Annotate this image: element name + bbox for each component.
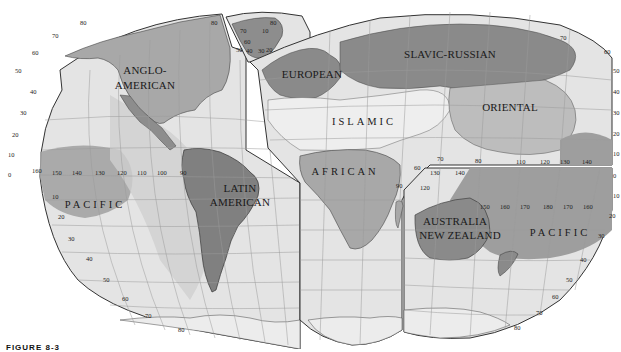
tick: 10 <box>52 193 59 200</box>
tick: 40 <box>613 88 620 95</box>
tick: 150 <box>52 169 62 176</box>
tick: 140 <box>72 169 82 176</box>
tick: 170 <box>520 203 530 210</box>
tick: 20 <box>613 130 620 137</box>
tick: 170 <box>563 203 573 210</box>
tick: 100 <box>157 169 167 176</box>
tick: 30 <box>598 232 605 239</box>
tick: 50 <box>236 46 243 53</box>
label-new-zealand: NEW ZEALAND <box>419 229 501 241</box>
tick: 20 <box>266 46 273 53</box>
tick: 50 <box>613 67 620 74</box>
tick: 70 <box>145 312 152 319</box>
tick: 140 <box>455 169 465 176</box>
label-latin-american-2: AMERICAN <box>210 196 270 208</box>
label-australia: AUSTRALIA <box>423 215 487 227</box>
label-anglo-american-1: ANGLO- <box>123 64 166 76</box>
tick: 0 <box>613 172 616 179</box>
tick: 30 <box>613 109 620 116</box>
tick: 20 <box>12 131 19 138</box>
tick: 130 <box>95 169 105 176</box>
tick: 80 <box>178 326 185 333</box>
tick: 20 <box>58 213 65 220</box>
tick: 180 <box>543 203 553 210</box>
tick: 10 <box>8 151 15 158</box>
tick: 40 <box>30 88 37 95</box>
tick: 110 <box>516 158 526 165</box>
tick: 30 <box>68 235 75 242</box>
tick: 160 <box>500 203 510 210</box>
tick: 70 <box>240 27 247 34</box>
label-anglo-american-2: AMERICAN <box>115 79 175 91</box>
label-african: AFRICAN <box>311 166 378 177</box>
tick: 40 <box>246 47 253 54</box>
tick: 60 <box>414 164 421 171</box>
tick: 80 <box>80 19 87 26</box>
tick: 70 <box>437 155 444 162</box>
tick: 50 <box>103 276 110 283</box>
tick: 140 <box>582 158 592 165</box>
label-latin-american-1: LATIN <box>224 182 257 194</box>
tick: 120 <box>420 184 430 191</box>
label-islamic: ISLAMIC <box>332 116 396 127</box>
tick: 80 <box>211 19 218 26</box>
tick: 90 <box>180 169 187 176</box>
tick: 50 <box>15 67 22 74</box>
antarctica-africa <box>308 317 402 346</box>
tick: 160 <box>32 167 42 174</box>
tick: 20 <box>609 212 616 219</box>
label-oriental: ORIENTAL <box>482 101 538 113</box>
oceania-lobe <box>404 168 612 338</box>
tick: 60 <box>604 48 611 55</box>
tick: 70 <box>52 32 59 39</box>
tick: 40 <box>580 256 587 263</box>
tick: 110 <box>137 169 147 176</box>
tick: 80 <box>514 324 521 331</box>
tick: 160 <box>583 203 593 210</box>
label-european: EUROPEAN <box>282 68 342 80</box>
tick: 60 <box>244 38 251 45</box>
tick: 10 <box>613 150 620 157</box>
tick: 120 <box>117 169 127 176</box>
tick: 60 <box>552 293 559 300</box>
tick: 120 <box>540 158 550 165</box>
tick: 10 <box>262 27 269 34</box>
tick: 60 <box>32 49 39 56</box>
tick: 150 <box>480 203 490 210</box>
tick: 130 <box>430 169 440 176</box>
tick: 80 <box>475 157 482 164</box>
tick: 30 <box>258 47 265 54</box>
label-pacific-west: PACIFIC <box>65 199 125 210</box>
tick: 60 <box>122 295 129 302</box>
figure-caption: FIGURE 8-3 <box>6 343 60 352</box>
tick: 50 <box>566 276 573 283</box>
tick: 90 <box>396 182 403 189</box>
tick: 10 <box>613 192 620 199</box>
tick: 80 <box>270 19 277 26</box>
tick: 70 <box>560 34 567 41</box>
tick: 0 <box>8 171 11 178</box>
label-pacific-east: PACIFIC <box>530 227 590 238</box>
tick: 30 <box>20 109 27 116</box>
label-slavic-russian: SLAVIC-RUSSIAN <box>404 48 496 60</box>
tick: 40 <box>86 255 93 262</box>
tick: 70 <box>536 309 543 316</box>
tick: 130 <box>560 158 570 165</box>
